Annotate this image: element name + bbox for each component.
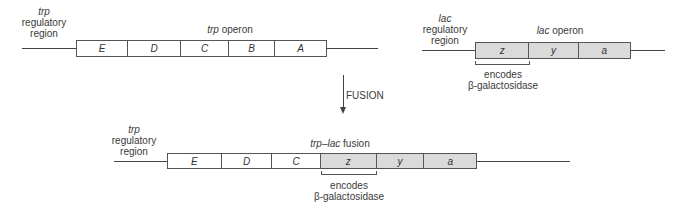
trp-lac-italic: trp–lac — [310, 138, 340, 149]
lac-regulatory-region-label: lac regulatory region — [420, 13, 470, 46]
encodes-beta-galactosidase-label: encodes β-galactosidase — [457, 69, 549, 91]
dna-line-right — [630, 50, 665, 51]
encodes-beta-galactosidase-label: encodes β-galactosidase — [303, 180, 395, 202]
region-text: region — [14, 28, 74, 39]
gene-D: D — [222, 154, 273, 168]
gene-a: a — [424, 154, 476, 168]
gene-D: D — [128, 41, 181, 56]
lac-italic: lac — [420, 13, 470, 24]
lac-gene-box: z y a — [475, 42, 631, 59]
beta-galactosidase-text: β-galactosidase — [303, 191, 395, 202]
operon-text: operon — [549, 25, 583, 36]
z-gene-bracket — [321, 171, 377, 175]
trp-gene-box: E D C B A — [76, 40, 327, 57]
gene-a: a — [579, 43, 630, 58]
encodes-text: encodes — [457, 69, 549, 80]
lac-italic: lac — [537, 25, 550, 36]
trp-italic: trp — [207, 24, 219, 35]
gene-y: y — [377, 154, 425, 168]
encodes-text: encodes — [303, 180, 395, 191]
regulatory-text: regulatory — [420, 24, 470, 35]
trp-lac-fusion-label: trp–lac fusion — [290, 138, 390, 149]
arrow-down-icon — [340, 107, 346, 114]
gene-C: C — [181, 41, 229, 56]
dna-line-left — [422, 50, 476, 51]
gene-E: E — [77, 41, 128, 56]
gene-C: C — [272, 154, 321, 168]
gene-A: A — [275, 41, 326, 56]
arrow-shaft — [343, 75, 344, 108]
dna-line-right — [326, 48, 378, 49]
operon-text: operon — [219, 24, 253, 35]
z-gene-bracket — [475, 61, 530, 65]
gene-y: y — [529, 43, 578, 58]
trp-italic: trp — [14, 6, 74, 17]
trp-operon-label: trp operon — [180, 24, 280, 35]
beta-galactosidase-text: β-galactosidase — [457, 80, 549, 91]
gene-z: z — [321, 154, 377, 168]
trp-regulatory-region-label: trp regulatory region — [104, 124, 164, 157]
lac-operon-label: lac operon — [520, 25, 600, 36]
regulatory-text: regulatory — [14, 17, 74, 28]
trp-regulatory-region-label: trp regulatory region — [14, 6, 74, 39]
trp-italic: trp — [104, 124, 164, 135]
fusion-text: fusion — [340, 138, 369, 149]
gene-E: E — [168, 154, 222, 168]
gene-z: z — [476, 43, 529, 58]
dna-line-right — [476, 161, 570, 162]
fusion-label: FUSION — [346, 90, 384, 101]
gene-B: B — [229, 41, 275, 56]
region-text: region — [104, 146, 164, 157]
dna-line-left — [22, 48, 76, 49]
regulatory-text: regulatory — [104, 135, 164, 146]
dna-line-left — [114, 161, 167, 162]
fusion-gene-box: E D C z y a — [167, 153, 477, 169]
region-text: region — [420, 35, 470, 46]
